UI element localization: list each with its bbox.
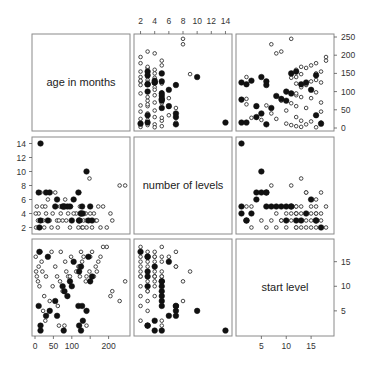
open-point-r2-c0 (80, 260, 84, 264)
open-point-r1-c2 (274, 212, 278, 216)
open-point-r1-c0 (63, 198, 67, 202)
diag-label-age: age in months (46, 76, 116, 88)
left-axis-levels-tick-label: 14 (17, 139, 27, 149)
filled-point-r0-c1 (166, 103, 172, 109)
open-point-r0-c1 (160, 64, 164, 68)
open-point-r0-c2 (314, 91, 318, 95)
filled-point-r2-c0 (71, 259, 77, 265)
open-point-r1-c2 (324, 226, 328, 230)
open-point-r0-c1 (153, 101, 157, 105)
open-point-r2-c1 (146, 260, 150, 264)
filled-point-r0-c1 (145, 89, 151, 95)
open-point-r1-c0 (50, 226, 54, 230)
open-point-r0-c2 (245, 97, 249, 101)
bottom-axis-start-tick-label: 15 (306, 341, 316, 351)
open-point-r0-c2 (284, 122, 288, 126)
filled-point-r2-c0 (78, 328, 84, 334)
open-point-r2-c0 (96, 260, 100, 264)
filled-point-r1-c0 (38, 141, 44, 147)
open-point-r1-c0 (88, 177, 92, 181)
filled-point-r1-c2 (308, 197, 314, 203)
filled-point-r2-c1 (223, 328, 229, 334)
open-point-r1-c2 (294, 212, 298, 216)
filled-point-r1-c2 (264, 190, 270, 196)
open-point-r2-c1 (153, 280, 157, 284)
filled-point-r0-c1 (173, 122, 179, 128)
open-point-r0-c1 (160, 59, 164, 63)
open-point-r0-c2 (319, 101, 323, 105)
open-point-r1-c0 (81, 226, 85, 230)
open-point-r1-c0 (56, 226, 60, 230)
open-point-r1-c0 (99, 226, 103, 230)
open-point-r2-c0 (69, 255, 73, 259)
open-point-r1-c2 (314, 226, 318, 230)
filled-point-r2-c1 (138, 249, 144, 255)
filled-point-r1-c2 (283, 218, 289, 224)
open-point-r1-c0 (101, 205, 105, 209)
open-point-r0-c2 (245, 75, 249, 79)
filled-point-r2-c0 (43, 313, 49, 319)
filled-point-r2-c1 (152, 318, 158, 324)
open-point-r1-c2 (284, 212, 288, 216)
filled-point-r2-c1 (159, 328, 165, 334)
open-point-r1-c0 (57, 219, 61, 223)
filled-point-r0-c2 (249, 78, 255, 84)
filled-point-r1-c0 (45, 218, 51, 224)
open-point-r2-c0 (84, 280, 88, 284)
open-point-r2-c1 (174, 250, 178, 254)
open-point-r1-c2 (265, 226, 269, 230)
open-point-r0-c2 (319, 81, 323, 85)
filled-point-r2-c0 (61, 328, 67, 334)
open-point-r2-c1 (146, 250, 150, 254)
open-point-r0-c1 (146, 103, 150, 107)
open-point-r0-c2 (299, 65, 303, 69)
filled-point-r0-c2 (254, 114, 260, 120)
open-point-r0-c2 (309, 80, 313, 84)
open-point-r0-c1 (181, 42, 185, 46)
filled-point-r1-c2 (313, 218, 319, 224)
open-point-r0-c2 (294, 104, 298, 108)
open-point-r2-c0 (40, 260, 44, 264)
open-point-r1-c2 (319, 219, 323, 223)
open-point-r1-c2 (294, 226, 298, 230)
filled-point-r0-c2 (239, 80, 245, 86)
open-point-r1-c0 (95, 219, 99, 223)
open-point-r1-c2 (314, 205, 318, 209)
open-point-r1-c2 (250, 226, 254, 230)
open-point-r2-c1 (167, 255, 171, 259)
open-point-r0-c1 (153, 115, 157, 119)
open-point-r2-c1 (181, 280, 185, 284)
filled-point-r0-c1 (159, 71, 165, 77)
open-point-r0-c2 (299, 95, 303, 99)
open-point-r0-c1 (139, 83, 143, 87)
open-point-r1-c0 (42, 226, 46, 230)
open-point-r1-c0 (34, 212, 38, 216)
open-point-r0-c2 (304, 66, 308, 70)
filled-point-r0-c1 (223, 120, 229, 126)
open-point-r2-c1 (139, 304, 143, 308)
open-point-r1-c0 (61, 219, 65, 223)
open-point-r0-c2 (304, 123, 308, 127)
open-point-r0-c1 (167, 96, 171, 100)
open-point-r2-c0 (42, 294, 46, 298)
open-point-r1-c2 (299, 226, 303, 230)
filled-point-r2-c0 (80, 318, 86, 324)
open-point-r0-c1 (139, 55, 143, 59)
left-axis-levels-tick-label: 2 (21, 223, 26, 233)
top-axis-levels-tick-label: 4 (152, 16, 157, 26)
open-point-r2-c0 (94, 265, 98, 269)
open-point-r2-c0 (105, 245, 109, 249)
open-point-r2-c1 (146, 299, 150, 303)
filled-point-r0-c2 (244, 120, 250, 126)
open-point-r2-c1 (146, 289, 150, 293)
open-point-r0-c1 (146, 95, 150, 99)
filled-point-r0-c1 (152, 80, 158, 86)
open-point-r0-c1 (139, 104, 143, 108)
open-point-r0-c2 (324, 59, 328, 63)
open-point-r2-c0 (44, 275, 48, 279)
open-point-r0-c2 (284, 109, 288, 113)
filled-point-r2-c0 (45, 254, 51, 260)
filled-point-r1-c2 (244, 218, 250, 224)
open-point-r1-c2 (270, 219, 274, 223)
bottom-axis-age-tick-label: 50 (49, 341, 59, 351)
